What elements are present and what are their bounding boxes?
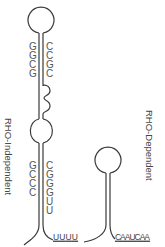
internal-loop-right — [43, 119, 52, 143]
rho-dependent-label: RHO-Dependent — [144, 110, 155, 181]
base: C — [46, 68, 53, 79]
terminator-diagram: G C G C C G G C G C C G C G C G U U UUUU… — [0, 0, 165, 247]
top-loop — [28, 7, 54, 33]
dependent-left-strand — [84, 173, 106, 242]
dependent-loop — [95, 147, 121, 173]
dependent-right-strand — [110, 173, 115, 239]
internal-loop-left — [30, 119, 39, 143]
rho-independent-label: RHO-Independent — [3, 118, 14, 195]
rho-dependent-hairpin — [84, 147, 121, 242]
independent-tail: UUUU — [53, 232, 78, 242]
upper-stem-bases: G C G C C G G C — [29, 41, 54, 79]
base: C — [29, 187, 36, 198]
dependent-tail: CAAUCAA — [115, 232, 150, 242]
base: U — [46, 205, 53, 216]
base: G — [29, 68, 37, 79]
lower-stem-bases: G C C G C G C G U U — [29, 160, 54, 216]
